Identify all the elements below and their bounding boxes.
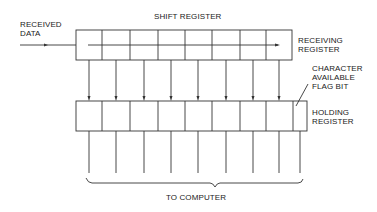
output-lines: [89, 131, 300, 173]
to-computer-label: TO COMPUTER: [166, 193, 226, 202]
brace: [86, 178, 303, 187]
shift-register-label: SHIFT REGISTER: [154, 12, 221, 21]
receiving-register-label: RECEIVING REGISTER: [298, 36, 343, 54]
character-available-flag-bit-label: CHARACTER AVAILABLE FLAG BIT: [312, 64, 363, 91]
flag-leader: [296, 84, 308, 106]
holding-register: [76, 101, 307, 131]
received-data-label: RECEIVED DATA: [20, 20, 62, 38]
holding-register-label: HOLDING REGISTER: [312, 108, 354, 126]
transfer-arrows: [89, 60, 279, 98]
